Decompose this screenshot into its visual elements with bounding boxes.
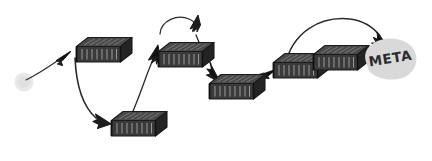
edge-n2-to-n3 — [130, 45, 160, 118]
node-n3[interactable] — [159, 43, 215, 68]
node-n4[interactable] — [210, 75, 266, 100]
start-dot — [15, 73, 34, 92]
flow-sketch-svg: META — [0, 0, 432, 161]
diagram-canvas: META — [0, 0, 432, 161]
meta-blob[interactable]: META — [365, 39, 416, 80]
node-n2[interactable] — [112, 112, 168, 137]
node-n6[interactable] — [314, 46, 370, 71]
edge-n3-self-loop — [160, 15, 201, 34]
edge-n1-to-n2 — [75, 58, 111, 129]
edge-start-to-n1 — [26, 52, 71, 81]
node-n1[interactable] — [77, 38, 133, 63]
